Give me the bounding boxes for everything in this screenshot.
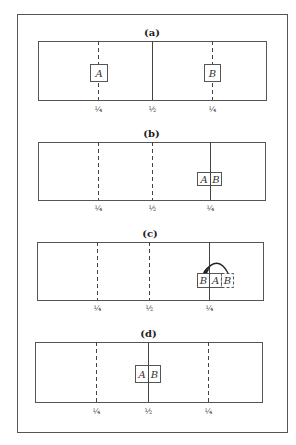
block-label: B xyxy=(223,275,231,286)
block-label: B xyxy=(199,275,207,286)
fraction-tick-label: ¼ xyxy=(209,105,217,114)
panels-group: (a)AB¼½¼(b)AB¼½¼(c)BAB¼½¼(d)AB¼½¼ xyxy=(36,27,267,416)
panel-c: (c)BAB¼½¼ xyxy=(38,228,264,313)
block-label: B xyxy=(208,68,216,79)
fraction-tick-label: ¼ xyxy=(94,304,102,313)
cell-outline xyxy=(38,243,264,301)
block-label: A xyxy=(94,68,102,79)
fraction-tick-label: ¼ xyxy=(93,407,101,416)
block-label: B xyxy=(211,174,219,185)
fraction-tick-label: ½ xyxy=(149,204,157,213)
panel-d: (d)AB¼½¼ xyxy=(36,328,263,416)
block-label: A xyxy=(199,174,207,185)
fraction-tick-label: ¼ xyxy=(205,407,213,416)
block-label: A xyxy=(137,369,145,380)
figure-stage: (a)AB¼½¼(b)AB¼½¼(c)BAB¼½¼(d)AB¼½¼ xyxy=(0,0,296,445)
panel-label: (a) xyxy=(144,27,160,38)
block-label: B xyxy=(150,369,158,380)
panel-label: (b) xyxy=(143,128,159,139)
fraction-tick-label: ¼ xyxy=(207,204,215,213)
fraction-tick-label: ¼ xyxy=(95,105,103,114)
panel-b: (b)AB¼½¼ xyxy=(39,128,266,213)
fraction-tick-label: ½ xyxy=(146,304,154,313)
fraction-tick-label: ½ xyxy=(145,407,153,416)
panel-label: (c) xyxy=(142,228,158,239)
fraction-tick-label: ½ xyxy=(149,105,157,114)
panel-label: (d) xyxy=(140,328,156,339)
fraction-tick-label: ¼ xyxy=(206,304,214,313)
chromosome-diagram: (a)AB¼½¼(b)AB¼½¼(c)BAB¼½¼(d)AB¼½¼ xyxy=(0,0,296,445)
panel-a: (a)AB¼½¼ xyxy=(39,27,267,114)
block-label: A xyxy=(211,275,219,286)
arrowhead-icon xyxy=(203,267,210,273)
fraction-tick-label: ¼ xyxy=(95,204,103,213)
